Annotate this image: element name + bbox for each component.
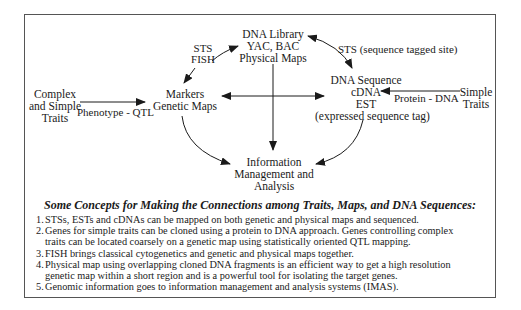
label-protein-dna: Protein - DNA <box>394 93 459 104</box>
item-number: 3. <box>36 248 44 259</box>
concept-item-5: 5. Genomic information goes to informati… <box>36 281 453 292</box>
node-line: Traits <box>458 98 494 110</box>
node-line: Traits <box>26 112 84 124</box>
item-number: 1. <box>36 214 44 225</box>
item-text: Physical map using overlapping cloned DN… <box>45 259 453 270</box>
label-sts-fish: STS FISH <box>190 43 216 65</box>
item-number: 5. <box>36 281 44 292</box>
item-text: FISH brings classical cytogenetics and g… <box>45 248 453 259</box>
node-line: Simple <box>458 86 494 98</box>
node-information-management: Information Management and Analysis <box>232 156 316 192</box>
node-line: Markers <box>150 88 220 100</box>
item-number: 2. <box>36 225 44 236</box>
node-line: YAC, BAC <box>238 40 308 52</box>
node-line: Analysis <box>232 180 316 192</box>
item-text: Genomic information goes to information … <box>45 281 453 292</box>
arrow-sequence-to-info <box>316 120 363 164</box>
label-sts-site: STS (sequence tagged site) <box>338 44 457 55</box>
arrow-sts-fish-to-markers <box>184 68 195 83</box>
node-line: Management and <box>232 168 316 180</box>
concept-item-1: 1. STSs, ESTs and cDNAs can be mapped on… <box>36 214 453 225</box>
node-line: Physical Maps <box>238 52 308 64</box>
label-line: FISH <box>190 54 216 65</box>
node-line: Genetic Maps <box>150 100 220 112</box>
concepts-title: Some Concepts for Making the Connections… <box>24 198 496 213</box>
arrow-markers-to-info <box>182 116 230 164</box>
node-dna-library: DNA Library YAC, BAC Physical Maps <box>238 28 308 64</box>
item-number: 4. <box>36 259 44 270</box>
item-text: traits can be located coarsely on a gene… <box>45 236 453 247</box>
node-complex-simple-traits: Complex and Simple Traits <box>26 88 84 124</box>
concepts-list: 1. STSs, ESTs and cDNAs can be mapped on… <box>36 214 453 292</box>
node-markers-genetic-maps: Markers Genetic Maps <box>150 88 220 112</box>
node-line: DNA Sequence <box>315 74 417 86</box>
item-text: genetic map within a short region and is… <box>45 270 453 281</box>
node-line: and Simple <box>26 100 84 112</box>
node-simple-traits: Simple Traits <box>458 86 494 110</box>
label-phenotype-qtl: Phenotype - QTL <box>77 107 154 118</box>
node-line: Information <box>232 156 316 168</box>
node-line: Complex <box>26 88 84 100</box>
concept-item-2: 2. Genes for simple traits can be cloned… <box>36 225 453 247</box>
item-text: STSs, ESTs and cDNAs can be mapped on bo… <box>45 214 453 225</box>
concept-item-3: 3. FISH brings classical cytogenetics an… <box>36 248 453 259</box>
node-line: (expressed sequence tag) <box>315 110 417 122</box>
item-text: Genes for simple traits can be cloned us… <box>45 225 453 236</box>
node-line: DNA Library <box>238 28 308 40</box>
concept-item-4: 4. Physical map using overlapping cloned… <box>36 259 453 281</box>
